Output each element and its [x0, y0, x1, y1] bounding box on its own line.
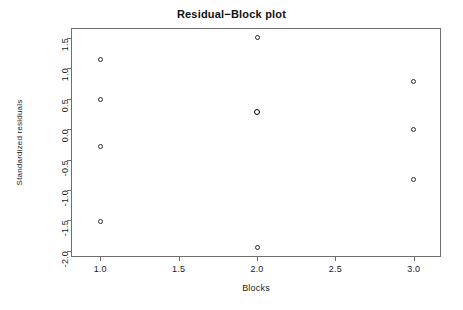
x-axis-tick-label: 1.0	[94, 264, 107, 274]
y-axis-tick-label: 1.0	[60, 68, 70, 81]
data-point	[411, 79, 416, 84]
x-axis-title: Blocks	[71, 283, 441, 293]
x-axis-tick	[100, 256, 101, 261]
x-axis-tick-label: 2.5	[329, 264, 342, 274]
data-point	[98, 144, 103, 149]
data-point	[254, 109, 260, 115]
data-point	[98, 219, 103, 224]
chart-title: Residual−Block plot	[0, 8, 463, 20]
y-axis-title: Standardized residuals	[14, 28, 26, 257]
y-axis-tick-label: 0.0	[60, 129, 70, 142]
data-point	[411, 127, 416, 132]
x-axis-tick	[335, 256, 336, 261]
y-axis-tick-label: -1.0	[60, 190, 70, 206]
x-axis-tick	[414, 256, 415, 261]
y-axis-tick-label: -2.0	[60, 251, 70, 267]
x-axis-tick-label: 3.0	[407, 264, 420, 274]
x-axis-tick	[257, 256, 258, 261]
plot-inner: 1.51.00.50.0-0.5-1.0-1.5-2.01.01.52.02.5…	[72, 29, 440, 256]
data-point	[255, 35, 260, 40]
data-point	[411, 177, 416, 182]
y-axis-tick-label: 1.5	[60, 38, 70, 51]
y-axis-tick-label: -1.5	[60, 220, 70, 236]
y-axis-title-label: Standardized residuals	[16, 100, 25, 186]
y-axis-tick-label: -0.5	[60, 160, 70, 176]
data-point	[98, 97, 103, 102]
plot-area: 1.51.00.50.0-0.5-1.0-1.5-2.01.01.52.02.5…	[71, 28, 441, 257]
x-axis-tick-label: 2.0	[250, 264, 263, 274]
y-axis-tick-label: 0.5	[60, 99, 70, 112]
data-point	[98, 57, 103, 62]
x-axis-tick-label: 1.5	[172, 264, 185, 274]
data-point	[255, 245, 260, 250]
chart-canvas: Residual−Block plot Standardized residua…	[0, 0, 463, 310]
x-axis-tick	[179, 256, 180, 261]
